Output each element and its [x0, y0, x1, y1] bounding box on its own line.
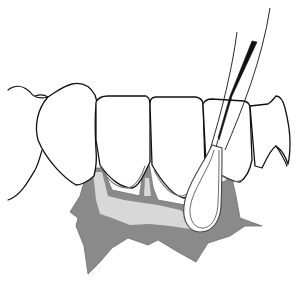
dental-illustration: [0, 0, 299, 283]
left-lower-contour: [8, 150, 42, 200]
left-gingiva-contour: [8, 86, 48, 98]
tooth-incisor-right: [250, 96, 290, 168]
tooth-canine-left: [36, 83, 97, 185]
